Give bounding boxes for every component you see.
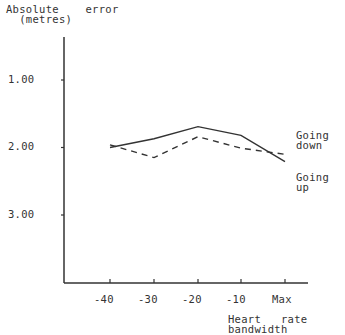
going-down-line — [110, 127, 285, 162]
going-up-line — [110, 137, 285, 158]
chart-plot-area — [0, 0, 345, 335]
